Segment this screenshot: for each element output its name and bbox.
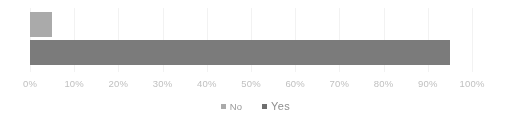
bar-series-group bbox=[30, 8, 472, 72]
x-axis-tick-label: 70% bbox=[330, 78, 350, 89]
x-axis-tick-label: 90% bbox=[418, 78, 438, 89]
bar-no bbox=[30, 12, 52, 37]
legend-label-yes: Yes bbox=[271, 101, 290, 112]
legend-swatch-icon-yes bbox=[262, 104, 267, 109]
plot-area bbox=[30, 8, 472, 72]
legend-swatch-icon-no bbox=[221, 104, 226, 109]
bar-chart: 0%10%20%30%40%50%60%70%80%90%100% No Yes bbox=[0, 0, 511, 126]
bar-yes bbox=[30, 40, 450, 65]
legend-label-no: No bbox=[230, 102, 242, 112]
x-axis-tick-label: 10% bbox=[64, 78, 84, 89]
gridline bbox=[472, 8, 473, 72]
x-axis-tick-label: 100% bbox=[459, 78, 484, 89]
x-axis-tick-label: 0% bbox=[23, 78, 37, 89]
legend-item-no[interactable]: No bbox=[221, 102, 242, 112]
chart-legend: No Yes bbox=[0, 101, 511, 112]
legend-item-yes[interactable]: Yes bbox=[262, 101, 290, 112]
x-axis-tick-label: 50% bbox=[241, 78, 261, 89]
x-axis-tick-label: 20% bbox=[109, 78, 129, 89]
x-axis-tick-label: 30% bbox=[153, 78, 173, 89]
x-axis-tick-label: 40% bbox=[197, 78, 217, 89]
x-axis-tick-label: 80% bbox=[374, 78, 394, 89]
x-axis-tick-label: 60% bbox=[285, 78, 305, 89]
x-axis-tick-labels: 0%10%20%30%40%50%60%70%80%90%100% bbox=[30, 78, 472, 92]
